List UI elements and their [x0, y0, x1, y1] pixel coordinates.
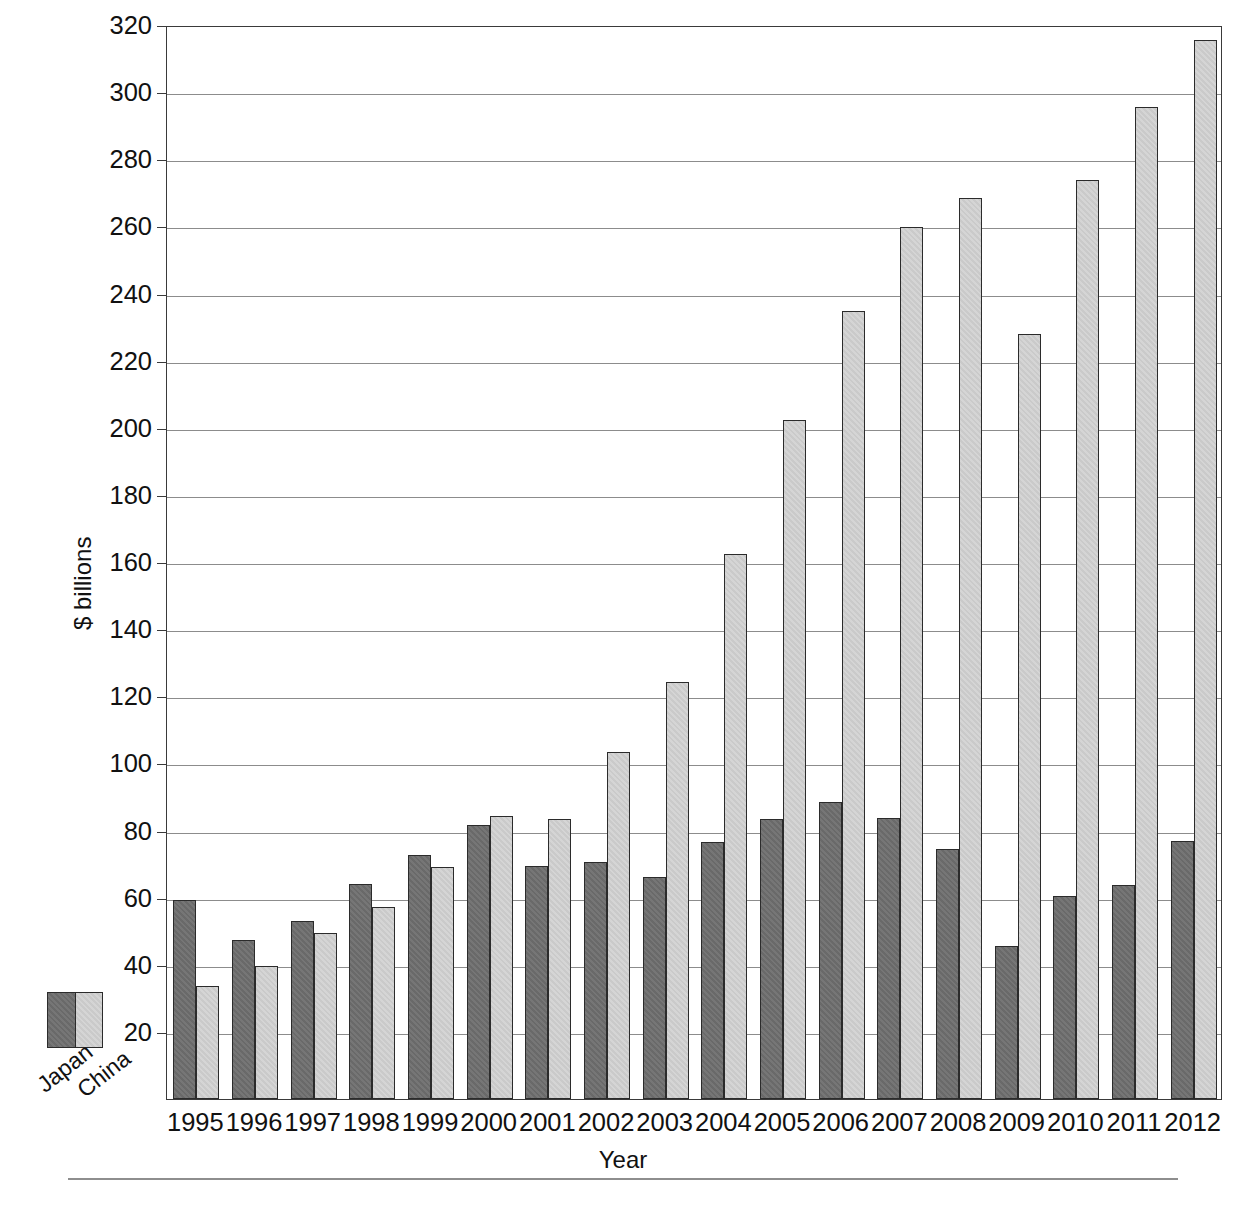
- bar-china-2005: [783, 420, 806, 1099]
- y-tick-label: 120: [14, 684, 152, 709]
- bar-china-2004: [724, 554, 747, 1099]
- bar-china-1998: [372, 907, 395, 1099]
- gridline: [167, 765, 1221, 766]
- bar-japan-2009: [995, 946, 1018, 1099]
- y-tick-label: 80: [14, 819, 152, 844]
- bar-china-1996: [255, 966, 278, 1099]
- bar-japan-2004: [701, 842, 724, 1099]
- gridline: [167, 631, 1221, 632]
- bar-japan-2003: [643, 877, 666, 1099]
- bar-japan-2010: [1053, 896, 1076, 1099]
- gridline: [167, 430, 1221, 431]
- y-tick-label: 180: [14, 483, 152, 508]
- bar-china-2010: [1076, 180, 1099, 1099]
- bar-japan-1998: [349, 884, 372, 1099]
- bar-china-2012: [1194, 40, 1217, 1099]
- bar-china-2006: [842, 311, 865, 1099]
- bar-china-1997: [314, 933, 337, 1099]
- bar-china-1995: [196, 986, 219, 1099]
- y-tick-label: 220: [14, 349, 152, 374]
- bar-japan-1999: [408, 855, 431, 1099]
- y-tick-label: 300: [14, 80, 152, 105]
- chart-figure: $ billions 20406080100120140160180200220…: [0, 0, 1246, 1211]
- y-tick-label: 160: [14, 550, 152, 575]
- bar-japan-2005: [760, 819, 783, 1099]
- bar-japan-1997: [291, 921, 314, 1099]
- x-axis-title: Year: [0, 1146, 1246, 1174]
- gridline: [167, 94, 1221, 95]
- y-tick-label: 200: [14, 416, 152, 441]
- bar-china-2008: [959, 198, 982, 1099]
- bar-japan-2008: [936, 849, 959, 1099]
- bar-china-2000: [490, 816, 513, 1099]
- bar-japan-2006: [819, 802, 842, 1099]
- bar-china-2007: [900, 227, 923, 1099]
- bar-china-2009: [1018, 334, 1041, 1099]
- bar-japan-2007: [877, 818, 900, 1099]
- y-axis-title: $ billions: [69, 430, 97, 630]
- bar-china-2001: [548, 819, 571, 1099]
- x-tick-label-2012: 2012: [1153, 1108, 1233, 1137]
- y-tick-label: 100: [14, 751, 152, 776]
- bar-china-2002: [607, 752, 630, 1099]
- plot-area: [166, 26, 1222, 1100]
- y-tick-label: 280: [14, 147, 152, 172]
- bar-japan-1995: [173, 900, 196, 1099]
- gridline: [167, 363, 1221, 364]
- y-tick-label: 140: [14, 617, 152, 642]
- gridline: [167, 833, 1221, 834]
- y-tick-label: 60: [14, 886, 152, 911]
- bar-japan-2000: [467, 825, 490, 1099]
- y-tick-label: 40: [14, 953, 152, 978]
- bar-japan-2001: [525, 866, 548, 1099]
- gridline: [167, 161, 1221, 162]
- legend: [47, 992, 103, 1048]
- bar-japan-2002: [584, 862, 607, 1099]
- y-tick-label: 240: [14, 282, 152, 307]
- y-tick-label: 320: [14, 13, 152, 38]
- bar-japan-2011: [1112, 885, 1135, 1099]
- bar-china-2011: [1135, 107, 1158, 1099]
- gridline: [167, 564, 1221, 565]
- gridline: [167, 296, 1221, 297]
- gridline: [167, 698, 1221, 699]
- bar-china-1999: [431, 867, 454, 1099]
- bar-japan-2012: [1171, 841, 1194, 1099]
- gridline: [167, 228, 1221, 229]
- bottom-divider: [68, 1178, 1178, 1180]
- gridline: [167, 497, 1221, 498]
- legend-swatch-japan: [48, 993, 76, 1047]
- bar-japan-1996: [232, 940, 255, 1099]
- y-tick-label: 260: [14, 214, 152, 239]
- bar-china-2003: [666, 682, 689, 1099]
